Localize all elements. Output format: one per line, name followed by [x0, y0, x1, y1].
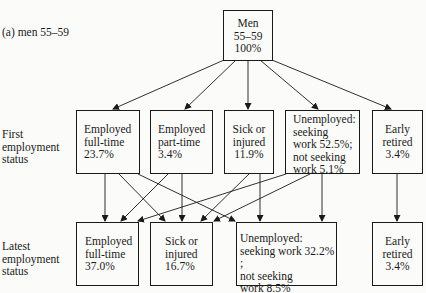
arrow-root-to-first-full-time: [113, 60, 224, 109]
box-line: Sick or: [165, 235, 212, 248]
box-line: not seeking: [240, 270, 336, 283]
row-label-line: status: [2, 153, 60, 166]
latest-early-retired-box: Early retired 3.4%: [372, 222, 423, 286]
box-line: Men: [224, 17, 272, 30]
box-line: 100%: [224, 42, 272, 55]
first-employed-full-time-box: Employed full-time 23.7%: [76, 110, 140, 174]
first-sick-or-injured-box: Sick or injured 11.9%: [224, 110, 274, 174]
arrow-sick-to-sick: [201, 174, 249, 221]
box-line: 55–59: [224, 30, 272, 43]
box-line: 23.7%: [84, 148, 139, 161]
box-line: Early: [373, 123, 422, 136]
box-line: retired: [373, 248, 422, 261]
arrow-root-to-first-early-retired: [272, 60, 391, 109]
row-label-line: employment: [2, 253, 60, 266]
box-line: 16.7%: [165, 260, 212, 273]
row-label-line: Latest: [2, 240, 60, 253]
box-line: injured: [225, 136, 273, 149]
root-box-men-55-59: Men 55–59 100%: [223, 10, 273, 61]
row-label-latest-employment-status: Latest employment status: [2, 240, 60, 278]
box-line: seeking: [293, 126, 359, 139]
box-line: retired: [373, 136, 422, 149]
first-employed-part-time-box: Employed part-time 3.4%: [150, 110, 213, 174]
box-line: not seeking: [293, 151, 359, 164]
box-line: 11.9%: [225, 148, 273, 161]
box-line: Employed: [85, 235, 138, 248]
box-line: 3.4%: [373, 260, 422, 273]
box-line: Early: [373, 235, 422, 248]
box-line: full-time: [84, 136, 139, 149]
arrow-root-to-first-part-time: [185, 60, 236, 109]
row-label-line: status: [2, 265, 60, 278]
box-line: Unemployed:: [293, 113, 359, 126]
arrow-unemployed-to-sick: [214, 174, 310, 221]
box-line: 37.0%: [85, 260, 138, 273]
box-line: work 5.1%: [293, 163, 359, 176]
transition-arrows: [0, 0, 426, 293]
box-line: part-time: [158, 136, 212, 149]
box-line: seeking work 32.2% ;: [240, 245, 336, 270]
box-line: work 8.5%: [240, 282, 336, 293]
box-line: Sick or: [225, 123, 273, 136]
row-label-first-employment-status: First employment status: [2, 128, 60, 166]
latest-sick-or-injured-box: Sick or injured 16.7%: [150, 222, 213, 286]
first-early-retired-box: Early retired 3.4%: [372, 110, 423, 174]
box-line: full-time: [85, 248, 138, 261]
box-line: work 52.5%;: [293, 138, 359, 151]
row-label-line: First: [2, 128, 60, 141]
box-line: Employed: [84, 123, 139, 136]
row-label-line: employment: [2, 141, 60, 154]
latest-unemployed-box: Unemployed: seeking work 32.2% ; not see…: [236, 222, 337, 286]
box-line: Unemployed:: [240, 232, 336, 245]
arrow-unemployed-to-ft: [138, 174, 286, 221]
box-line: Employed: [158, 123, 212, 136]
arrow-ft-to-sick: [119, 174, 165, 221]
arrow-ft-to-unemployed: [138, 174, 235, 221]
latest-employed-full-time-box: Employed full-time 37.0%: [76, 222, 139, 286]
first-unemployed-box: Unemployed: seeking work 52.5%; not seek…: [285, 110, 360, 174]
box-line: 3.4%: [158, 148, 212, 161]
box-line: 3.4%: [373, 148, 422, 161]
box-line: injured: [165, 248, 212, 261]
panel-label: (a) men 55–59: [2, 26, 69, 39]
